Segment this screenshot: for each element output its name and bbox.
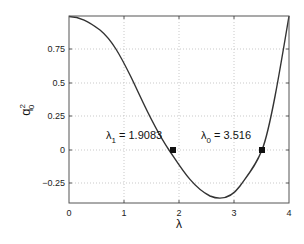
- marker-lambda1: [170, 147, 176, 153]
- y-axis-label: q20: [18, 104, 36, 116]
- y-tick-label: 0.25: [47, 111, 65, 121]
- y-tick-label: −0.25: [42, 178, 65, 188]
- y-label-sub: 0: [27, 104, 36, 109]
- y-tick-label: 0.5: [52, 78, 65, 88]
- x-tick-label: 0: [66, 208, 71, 218]
- y-label-sup: 2: [18, 104, 27, 109]
- y-tick-label: 0: [60, 145, 65, 155]
- x-tick-label: 1: [121, 208, 126, 218]
- chart: 0 1 2 3 4 0.75 0.5 0.25 0 −0.25 λ q20 λ1…: [0, 0, 304, 244]
- x-tick-label: 4: [286, 208, 291, 218]
- x-axis-label: λ: [176, 217, 182, 231]
- x-tick-label: 3: [231, 208, 236, 218]
- y-tick-label: 0.75: [47, 44, 65, 54]
- marker-lambda0: [259, 147, 265, 153]
- svg-text:q20: q20: [18, 104, 36, 116]
